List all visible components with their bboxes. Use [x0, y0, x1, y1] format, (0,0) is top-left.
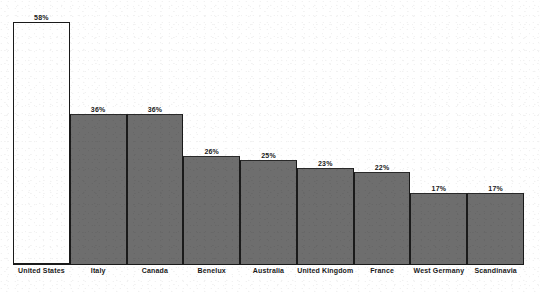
bar-column-italy[interactable]: 36%	[70, 22, 127, 264]
bar-value-label: 25%	[261, 152, 276, 159]
bar-italy[interactable]: 36%	[70, 114, 127, 264]
bar-value-label: 17%	[432, 185, 447, 192]
x-axis-tick-labels: United States Italy Canada Benelux Austr…	[13, 267, 524, 274]
bar-column-benelux[interactable]: 26%	[183, 22, 240, 264]
bar-west-germany[interactable]: 17%	[410, 193, 467, 264]
bar-column-scandinavia[interactable]: 17%	[467, 22, 524, 264]
bar-column-france[interactable]: 22%	[354, 22, 411, 264]
bar-value-label: 23%	[318, 160, 333, 167]
bar-value-label: 17%	[488, 185, 503, 192]
bar-column-united-kingdom[interactable]: 23%	[297, 22, 354, 264]
bar-column-united-states[interactable]: 58%	[13, 22, 70, 264]
axis-label-benelux: Benelux	[183, 267, 240, 274]
bar-value-label: 36%	[91, 106, 106, 113]
bar-value-label: 58%	[34, 14, 49, 21]
bar-value-label: 26%	[204, 148, 219, 155]
bar-series: 58% 36% 36% 26% 25%	[13, 22, 524, 264]
bar-chart: 58% 36% 36% 26% 25%	[0, 0, 540, 292]
bar-column-canada[interactable]: 36%	[127, 22, 184, 264]
bar-australia[interactable]: 25%	[240, 160, 297, 264]
axis-label-italy: Italy	[70, 267, 127, 274]
bar-value-label: 22%	[375, 164, 390, 171]
bar-canada[interactable]: 36%	[127, 114, 184, 264]
bar-france[interactable]: 22%	[354, 172, 411, 264]
bar-united-kingdom[interactable]: 23%	[297, 168, 354, 264]
axis-label-west-germany: West Germany	[410, 267, 467, 274]
bar-column-west-germany[interactable]: 17%	[410, 22, 467, 264]
plot-area: 58% 36% 36% 26% 25%	[13, 14, 524, 264]
axis-label-australia: Australia	[240, 267, 297, 274]
bar-value-label: 36%	[148, 106, 163, 113]
bar-united-states[interactable]: 58%	[13, 22, 70, 264]
x-axis-line	[13, 264, 524, 265]
axis-label-united-kingdom: United Kingdom	[297, 267, 354, 274]
axis-label-united-states: United States	[13, 267, 70, 274]
bar-column-australia[interactable]: 25%	[240, 22, 297, 264]
axis-label-canada: Canada	[127, 267, 184, 274]
bar-benelux[interactable]: 26%	[183, 156, 240, 264]
axis-label-scandinavia: Scandinavia	[467, 267, 524, 274]
bar-scandinavia[interactable]: 17%	[467, 193, 524, 264]
axis-label-france: France	[354, 267, 411, 274]
